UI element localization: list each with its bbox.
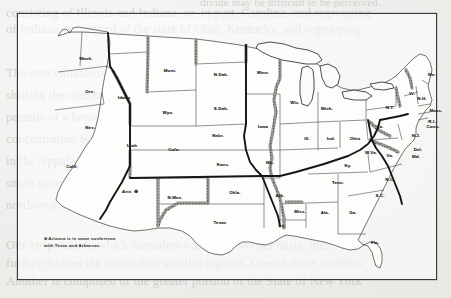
state-label-or: Ore. [85, 89, 94, 94]
state-label-sd: S.Dak. [214, 106, 228, 111]
state-label-me: Me. [428, 72, 436, 77]
state-label-pa: Pa. [376, 124, 383, 129]
state-label-wi: Wis. [290, 100, 300, 105]
state-label-az-text: Ariz. [122, 189, 132, 194]
state-label-de: Del. [414, 147, 423, 152]
state-label-ms: Miss. [294, 209, 306, 214]
scanned-page: divide may be difficult to be perceived.… [0, 0, 451, 298]
state-label-nd: N.Dak. [214, 72, 229, 77]
state-label-mo: Mo. [266, 160, 274, 165]
state-label-in: Ind. [327, 136, 335, 141]
state-label-id: Idaho [118, 95, 130, 100]
state-label-wa: Wash. [79, 56, 93, 61]
figure-footnote: ⊕ Arizona is in same conference with Tex… [44, 236, 116, 249]
state-label-ct: Conn. [426, 124, 439, 129]
state-label-ok: Okla. [229, 190, 241, 195]
state-label-vt: Vt. [409, 91, 415, 96]
state-label-mt: Mont. [164, 68, 176, 73]
state-label-fl: Fla. [371, 240, 379, 245]
state-label-mi: Mich. [321, 106, 333, 111]
state-label-wy: Wyo. [162, 110, 173, 115]
state-label-tx: Texas [214, 220, 227, 225]
state-label-ar: Ark. [275, 193, 284, 198]
state-label-ks: Kans. [217, 162, 230, 167]
state-label-ma: Mass. [430, 108, 443, 113]
state-label-wv: W.Va. [365, 150, 377, 155]
state-label-nm: N.Mex. [167, 195, 182, 200]
state-label-az: Ariz. ⊕ [122, 188, 138, 194]
state-label-tn: Tenn. [332, 180, 344, 185]
state-label-ca: Calif. [66, 164, 78, 169]
footnote-marker-icon: ⊕ [134, 188, 138, 194]
state-label-nj: N.J. [412, 133, 421, 138]
state-label-il: Ill. [304, 136, 309, 141]
state-label-ky: Ky. [345, 163, 352, 168]
figure-frame: Wash. Ore. Idaho Nev. Calif. Mont. Wyo. … [17, 13, 437, 280]
state-label-ia: Iowa [258, 124, 268, 129]
state-label-ga: Ga. [349, 210, 357, 215]
state-label-co: Colo. [168, 147, 180, 152]
state-label-nv: Nev. [85, 125, 95, 130]
lake-michigan [300, 66, 314, 106]
state-label-ut: Utah [127, 143, 137, 148]
state-label-md: Md. [412, 154, 420, 159]
us-map: Wash. Ore. Idaho Nev. Calif. Mont. Wyo. … [18, 14, 436, 279]
state-label-mn: Minn. [257, 70, 269, 75]
state-label-la: La. [279, 223, 286, 228]
state-label-va: Va. [387, 153, 394, 158]
state-label-ny: N.Y. [386, 105, 395, 110]
state-label-nc: N.C. [385, 177, 394, 182]
state-label-ne: Nebr. [212, 133, 224, 138]
state-label-sc: S.C. [375, 193, 384, 198]
state-label-nh: N.H. [417, 96, 426, 101]
showthrough-text-top: divide may be difficult to be perceived. [200, 0, 381, 8]
state-label-al: Ala. [321, 210, 330, 215]
state-label-oh: Ohio [350, 136, 361, 141]
